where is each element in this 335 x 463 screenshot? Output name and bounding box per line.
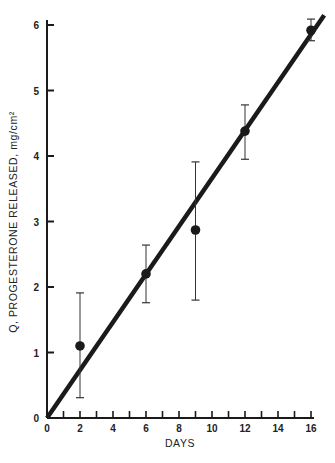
x-tick-label: 2 (77, 423, 83, 434)
release-chart: 01234560246810121416 DAYS Q, PROGESTERON… (0, 0, 335, 463)
x-tick-label: 4 (110, 423, 116, 434)
data-point (191, 162, 201, 300)
marker-circle (306, 25, 316, 35)
marker-circle (75, 341, 85, 351)
data-point (240, 105, 250, 159)
data-point (141, 245, 151, 303)
x-axis-title: DAYS (165, 437, 195, 449)
y-tick-label: 6 (33, 20, 39, 31)
ticks: 01234560246810121416 (33, 20, 317, 434)
y-axis-title: Q, PROGESTERONE RELEASED, mg/cm² (7, 111, 19, 333)
y-tick-label: 1 (33, 348, 39, 359)
marker-circle (191, 225, 201, 235)
marker-circle (240, 126, 250, 136)
x-tick-label: 8 (176, 423, 182, 434)
x-tick-label: 14 (272, 423, 284, 434)
x-tick-label: 12 (239, 423, 251, 434)
regression-line (47, 15, 324, 418)
data-point (75, 293, 85, 398)
y-tick-label: 2 (33, 282, 39, 293)
x-tick-label: 16 (305, 423, 317, 434)
fit-line (47, 15, 324, 418)
y-tick-label: 3 (33, 217, 39, 228)
x-tick-label: 6 (143, 423, 149, 434)
marker-circle (141, 269, 151, 279)
y-tick-label: 0 (33, 413, 39, 424)
x-tick-label: 10 (206, 423, 218, 434)
x-tick-label: 0 (44, 423, 50, 434)
y-tick-label: 4 (33, 151, 39, 162)
y-tick-label: 5 (33, 86, 39, 97)
